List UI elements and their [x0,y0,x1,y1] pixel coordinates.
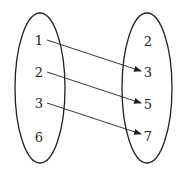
right-element: 3 [144,65,152,80]
right-element: 5 [144,97,152,112]
left-element: 3 [35,96,43,111]
arrow-2-to-5 [47,72,141,103]
left-element: 6 [35,130,43,145]
right-element: 2 [144,34,152,49]
left-element: 1 [35,33,43,48]
left-element: 2 [35,65,43,80]
right-element: 7 [144,129,152,144]
mapping-diagram: 1 2 3 6 2 3 5 7 [0,0,182,173]
